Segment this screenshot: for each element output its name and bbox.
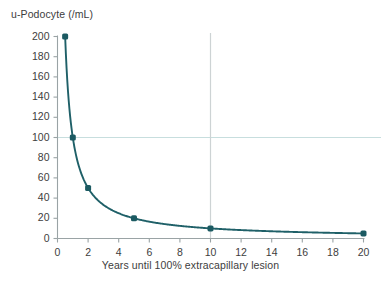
x-tick-label: 10 — [198, 246, 224, 258]
y-tick-label: 120 — [20, 110, 50, 122]
data-point-marker — [361, 230, 367, 236]
data-point-marker — [70, 135, 76, 141]
x-tick-label: 14 — [259, 246, 285, 258]
data-point-marker — [85, 185, 91, 191]
data-point-marker — [62, 34, 68, 40]
x-tick-label: 0 — [45, 246, 71, 258]
x-tick-label: 18 — [320, 246, 346, 258]
x-tick-label: 20 — [351, 246, 377, 258]
data-curve — [65, 37, 363, 234]
x-axis-ticks — [58, 239, 364, 243]
y-tick-label: 200 — [20, 30, 50, 42]
data-point-marker — [208, 225, 214, 231]
y-tick-label: 100 — [20, 131, 50, 143]
x-axis-label: Years until 100% extracapillary lesion — [0, 259, 381, 271]
x-tick-label: 6 — [136, 246, 162, 258]
data-point-marker — [131, 215, 137, 221]
y-tick-label: 140 — [20, 90, 50, 102]
axes — [54, 36, 365, 243]
y-tick-label: 0 — [20, 232, 50, 244]
x-tick-label: 4 — [106, 246, 132, 258]
y-tick-label: 180 — [20, 50, 50, 62]
y-tick-label: 160 — [20, 70, 50, 82]
plot-canvas — [0, 0, 381, 287]
y-tick-label: 80 — [20, 151, 50, 163]
y-tick-label: 20 — [20, 211, 50, 223]
x-tick-label: 8 — [167, 246, 193, 258]
y-tick-label: 40 — [20, 191, 50, 203]
x-tick-label: 12 — [228, 246, 254, 258]
y-axis-ticks — [54, 37, 58, 239]
y-tick-label: 60 — [20, 171, 50, 183]
chart-figure: u-Podocyte (/mL) 02040608010012014016018… — [0, 0, 381, 287]
data-point-markers — [62, 34, 366, 237]
x-tick-label: 16 — [289, 246, 315, 258]
x-tick-label: 2 — [75, 246, 101, 258]
